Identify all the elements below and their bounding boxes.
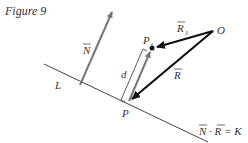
- label-p1-sub: 1: [150, 41, 154, 49]
- label-r1-sub: 1: [185, 29, 189, 37]
- label-n: N: [82, 44, 91, 56]
- label-r: R: [173, 69, 181, 81]
- figure-caption: Figure 9: [5, 4, 46, 19]
- label-o: O: [217, 24, 225, 36]
- label-p1: P: [142, 34, 150, 46]
- label-d: d: [121, 68, 127, 80]
- label-l: L: [54, 79, 61, 91]
- figure-9-diagram: Figure 9 N L O P 1 R: [0, 0, 248, 143]
- label-r1: R: [176, 22, 184, 34]
- label-p: P: [121, 107, 129, 119]
- equation-label: N · R = K: [198, 125, 242, 137]
- vector-diagram: N L O P 1 R 1 R d P N · R = K: [0, 0, 248, 143]
